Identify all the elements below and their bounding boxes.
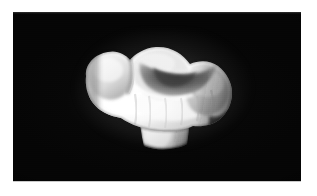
- figure-root: [0, 0, 317, 196]
- figure-caption: [13, 183, 301, 194]
- panel-baseline-rule: [13, 181, 301, 182]
- tooth-specimen: [13, 12, 301, 181]
- specimen-stage: [13, 12, 301, 181]
- tooth-crown: [79, 42, 241, 140]
- specimen-image-panel: [13, 12, 301, 181]
